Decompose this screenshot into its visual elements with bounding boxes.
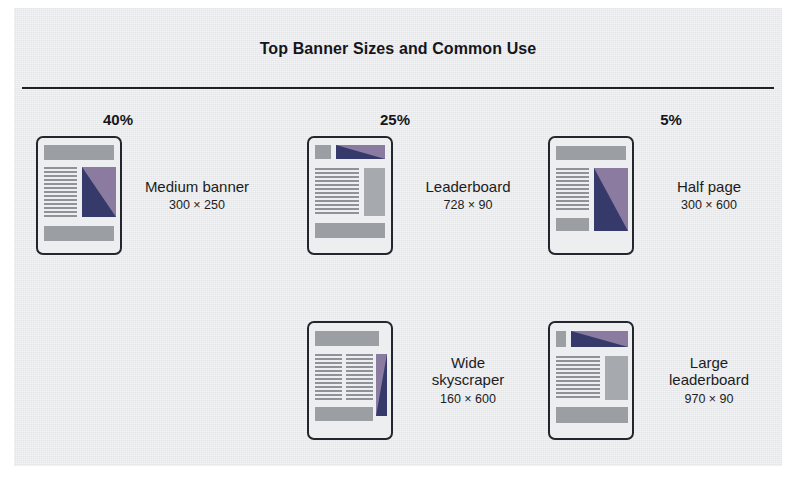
banner-dimensions: 300 × 250 (136, 198, 258, 212)
thumb-ad-block (376, 354, 387, 416)
banner-name: Leaderboard (407, 179, 529, 196)
banner-name-line1: Large (648, 355, 770, 372)
thumb-text-lines-left (315, 354, 342, 400)
banner-name: Medium banner (136, 179, 258, 196)
banner-label-medium-banner: Medium banner 300 × 250 (136, 179, 258, 213)
thumb-sidebar-block (605, 356, 628, 400)
thumb-text-lines (556, 356, 600, 400)
thumb-ad-block (571, 331, 628, 347)
banner-label-half-page: Half page 300 × 600 (648, 179, 770, 213)
thumbnail-half-page (548, 136, 634, 255)
thumb-text-lines (44, 167, 77, 217)
thumb-ad-block (82, 167, 116, 217)
banner-label-wide-skyscraper: Wide skyscraper 160 × 600 (407, 355, 529, 406)
banner-dimensions: 300 × 600 (648, 198, 770, 212)
banner-dimensions: 728 × 90 (407, 198, 529, 212)
thumb-ad-block (594, 168, 628, 231)
thumb-text-lines-right (346, 354, 373, 400)
thumb-secondary-bar (556, 218, 589, 231)
percentage-label-medium-banner: 40% (78, 111, 158, 128)
percentage-label-leaderboard: 25% (355, 111, 435, 128)
thumbnail-large-leaderboard (548, 321, 634, 440)
thumbnail-medium-banner (36, 136, 122, 255)
thumb-text-lines (556, 168, 589, 212)
page-title: Top Banner Sizes and Common Use (0, 40, 796, 58)
thumb-ad-block (336, 145, 385, 159)
banner-item-half-page: Half page 300 × 600 (548, 136, 770, 255)
thumb-footer-bar (315, 223, 385, 238)
banner-label-large-leaderboard: Large leaderboard 970 × 90 (648, 355, 770, 406)
thumb-ad-triangle (336, 145, 385, 159)
banner-item-large-leaderboard: Large leaderboard 970 × 90 (548, 321, 770, 440)
thumb-logo-block (315, 145, 331, 159)
thumb-text-lines (315, 168, 359, 216)
banner-name: Half page (648, 179, 770, 196)
thumb-ad-triangle (571, 331, 628, 347)
thumb-header-bar (556, 146, 626, 160)
thumbnail-wide-skyscraper (307, 321, 393, 440)
thumb-ad-triangle (376, 354, 387, 416)
thumb-header-bar (315, 331, 379, 346)
percentage-label-half-page: 5% (631, 111, 711, 128)
header-divider (22, 87, 774, 89)
banner-dimensions: 970 × 90 (648, 392, 770, 406)
banner-label-leaderboard: Leaderboard 728 × 90 (407, 179, 529, 213)
thumbnail-leaderboard (307, 136, 393, 255)
banner-item-medium-banner: Medium banner 300 × 250 (36, 136, 258, 255)
thumb-ad-triangle (82, 167, 116, 217)
banner-name-line2: skyscraper (407, 372, 529, 389)
banner-dimensions: 160 × 600 (407, 392, 529, 406)
thumb-footer-bar (556, 407, 628, 423)
thumb-footer-bar (44, 226, 114, 241)
thumb-sidebar-block (364, 168, 385, 216)
banner-item-leaderboard: Leaderboard 728 × 90 (307, 136, 529, 255)
banner-item-wide-skyscraper: Wide skyscraper 160 × 600 (307, 321, 529, 440)
thumb-footer-bar (315, 407, 373, 421)
thumb-logo-block (556, 331, 566, 347)
banner-name-line2: leaderboard (648, 372, 770, 389)
thumb-header-bar (44, 145, 114, 160)
banner-name-line1: Wide (407, 355, 529, 372)
thumb-ad-triangle (594, 168, 628, 231)
